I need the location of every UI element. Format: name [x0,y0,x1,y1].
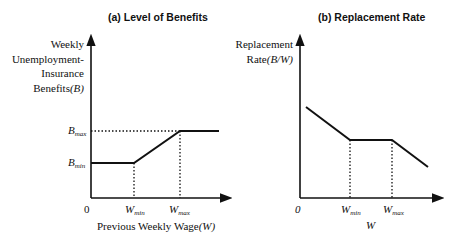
panel-a-x-label: Previous Weekly Wage(W) [97,220,215,232]
tick-b-max: Bmax [68,124,86,138]
y-label-line: Rate [247,53,267,65]
panel-b-origin: 0 [295,203,301,215]
tick-w-min: Wmin [341,203,361,217]
panel-b-guides [350,140,392,198]
y-label-line: Unemployment- [12,52,84,67]
y-label-variable: (B) [70,82,84,94]
tick-b-min: Bmin [68,156,85,170]
panel-a-axes [91,40,226,198]
panel-b-title: (b) Replacement Rate [318,11,425,23]
panel-b-replacement-curve [306,107,428,167]
panel-b-x-label: W [366,219,375,231]
panel-a-origin: 0 [84,203,90,215]
y-label-line: Benefits [33,82,70,94]
panel-a-title: (a) Level of Benefits [108,11,208,23]
tick-w-max: Wmax [169,203,190,217]
tick-w-max: Wmax [383,203,404,217]
tick-w-min: Wmin [125,203,145,217]
y-label-line: Weekly [12,37,84,52]
y-label-line: Replacement [236,37,293,52]
y-label-variable: (B/W) [267,53,293,65]
panel-a-y-label: Weekly Unemployment- Insurance Benefits(… [12,37,84,95]
panel-a-benefit-curve [91,131,219,163]
panel-b-y-label: Replacement Rate(B/W) [236,37,293,66]
y-label-line: Insurance [12,66,84,81]
